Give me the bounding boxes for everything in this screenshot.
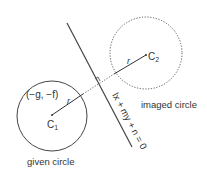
radius-label-c1: r — [67, 96, 71, 106]
mirror-line — [67, 23, 132, 147]
center-coords-label: (−g, −f) — [26, 89, 58, 100]
diagram-canvas: (−g, −f) r C1 given circle r C2 imaged c… — [0, 0, 207, 176]
radius-c2 — [114, 55, 146, 74]
given-circle-label: given circle — [27, 156, 75, 167]
imaged-circle-label: imaged circle — [141, 99, 197, 110]
center-dot-c2 — [145, 54, 147, 56]
center-label-c1: C1 — [47, 119, 58, 131]
center-dot-c1 — [51, 114, 53, 116]
imaged-circle — [110, 17, 182, 89]
center-label-c2: C2 — [148, 51, 159, 63]
